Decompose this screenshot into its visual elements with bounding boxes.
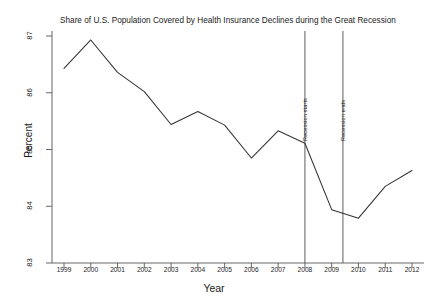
x-tick-label: 2001 <box>103 266 133 273</box>
x-tick-label: 2009 <box>317 266 347 273</box>
x-tick-label: 2005 <box>210 266 240 273</box>
x-tick-label: 2002 <box>129 266 159 273</box>
x-tick-label: 2006 <box>236 266 266 273</box>
recession-marker-lines <box>305 31 343 263</box>
x-tick-label: 2012 <box>397 266 427 273</box>
chart-container: Share of U.S. Population Covered by Heal… <box>0 0 428 307</box>
x-tick-label: 2008 <box>290 266 320 273</box>
y-tick-marks <box>46 36 52 263</box>
data-series-line <box>64 40 412 218</box>
x-tick-label: 2007 <box>263 266 293 273</box>
y-tick-label: 86 <box>25 81 34 103</box>
plot-area <box>0 0 428 307</box>
y-tick-label: 87 <box>25 25 34 47</box>
x-tick-label: 2000 <box>76 266 106 273</box>
x-tick-label: 1999 <box>49 266 79 273</box>
x-tick-label: 2004 <box>183 266 213 273</box>
y-tick-label: 83 <box>25 252 34 274</box>
axis-lines <box>52 31 424 263</box>
recession-marker-label: Recession starts <box>302 98 308 141</box>
x-tick-label: 2003 <box>156 266 186 273</box>
recession-marker-label: Recession ends <box>340 100 346 141</box>
x-tick-label: 2011 <box>370 266 400 273</box>
y-tick-label: 84 <box>25 195 34 217</box>
y-tick-label: 85 <box>25 138 34 160</box>
x-tick-label: 2010 <box>343 266 373 273</box>
